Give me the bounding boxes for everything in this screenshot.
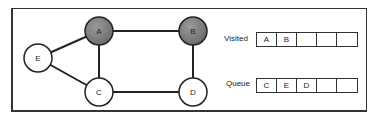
queue-cell: C <box>257 79 277 92</box>
node-c: C <box>85 78 113 106</box>
queue-cell <box>317 79 337 92</box>
node-d: D <box>179 78 207 106</box>
visited-array: A B <box>256 32 358 47</box>
visited-cell <box>337 33 357 46</box>
graph: A B C D E <box>0 0 379 120</box>
edges <box>38 31 193 92</box>
node-a-label: A <box>96 27 102 36</box>
node-b: B <box>179 17 207 45</box>
node-c-label: C <box>96 88 102 97</box>
node-e-label: E <box>35 54 40 63</box>
queue-array: C E D <box>256 78 358 93</box>
queue-label: Queue <box>226 79 250 88</box>
queue-cell <box>337 79 357 92</box>
node-a: A <box>85 17 113 45</box>
queue-cell: E <box>277 79 297 92</box>
visited-label: Visited <box>224 34 248 43</box>
node-b-label: B <box>190 27 195 36</box>
visited-cell: B <box>277 33 297 46</box>
visited-cell <box>317 33 337 46</box>
queue-cell: D <box>297 79 317 92</box>
visited-cell <box>297 33 317 46</box>
node-e: E <box>24 44 52 72</box>
visited-cell: A <box>257 33 277 46</box>
node-d-label: D <box>190 88 196 97</box>
